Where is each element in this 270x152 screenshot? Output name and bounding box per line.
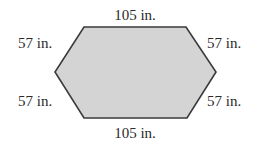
label-bottom: 105 in.	[114, 125, 156, 141]
label-upper-left: 57 in.	[18, 35, 52, 51]
label-upper-right: 57 in.	[207, 35, 241, 51]
label-top: 105 in.	[114, 7, 156, 23]
label-lower-right: 57 in.	[207, 93, 241, 109]
hexagon-diagram: 105 in. 105 in. 57 in. 57 in. 57 in. 57 …	[0, 0, 270, 152]
label-lower-left: 57 in.	[18, 93, 52, 109]
hexagon-shape	[55, 27, 216, 118]
